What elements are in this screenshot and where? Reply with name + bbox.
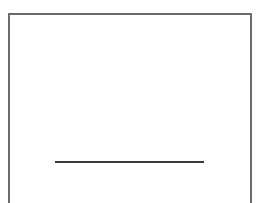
diagram-canvas	[0, 0, 258, 203]
rectangle-frame	[8, 13, 252, 203]
horizontal-line	[55, 161, 204, 163]
